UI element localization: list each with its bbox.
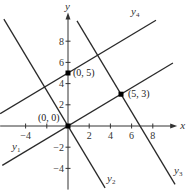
line-label-y3: y3 xyxy=(173,164,183,178)
y-tick-label: 4 xyxy=(59,78,64,89)
x-axis-label: x xyxy=(179,119,185,131)
y-tick-label: 2 xyxy=(59,99,64,110)
x-tick-label: 4 xyxy=(108,130,113,141)
x-tick-label: 8 xyxy=(150,130,155,141)
line-y1 xyxy=(2,63,173,165)
line-label-y4: y4 xyxy=(130,5,140,19)
point-label: (0, 5) xyxy=(73,67,95,79)
y-tick-label: −2 xyxy=(53,142,64,153)
point-marker xyxy=(119,92,124,97)
points: (0, 0)(0, 5)(5, 3) xyxy=(38,67,150,129)
axes: x y −42468 8642−2−4 xyxy=(0,0,185,190)
y-tick-label: 8 xyxy=(59,36,64,47)
y-tick-label: −4 xyxy=(53,163,64,174)
point-label: (5, 3) xyxy=(128,88,150,100)
x-tick-label: 6 xyxy=(129,130,134,141)
point-marker xyxy=(66,124,71,129)
x-tick-label: 2 xyxy=(87,130,92,141)
x-axis-arrow-icon xyxy=(170,124,177,129)
graph-lines: y1y2y3y4 xyxy=(0,5,183,188)
coordinate-diagram: x y −42468 8642−2−4 y1y2y3y4 (0, 0)(0, 5… xyxy=(0,0,190,191)
line-y3 xyxy=(77,21,175,184)
point-marker xyxy=(66,71,71,76)
line-label-y1: y1 xyxy=(11,140,21,154)
point-label: (0, 0) xyxy=(38,112,60,124)
y-axis-label: y xyxy=(64,0,70,12)
x-tick-label: −4 xyxy=(20,130,31,141)
y-axis-arrow-icon xyxy=(66,13,71,20)
line-label-y2: y2 xyxy=(106,172,116,186)
y-tick-label: 6 xyxy=(59,57,64,68)
